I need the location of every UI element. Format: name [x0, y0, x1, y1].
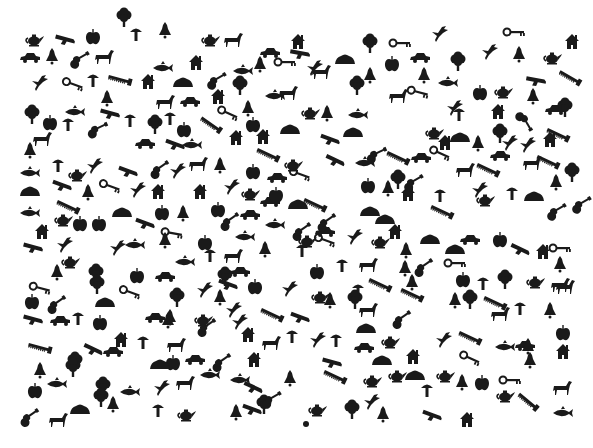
- fish-icon: [351, 149, 379, 177]
- horse-icon: [548, 374, 576, 402]
- guitar-icon: [286, 218, 314, 246]
- pistol-icon: [238, 396, 266, 424]
- mushroom-icon: [413, 376, 441, 404]
- bell-icon: [313, 99, 341, 127]
- key-icon: [158, 219, 186, 247]
- bird-icon: [476, 38, 504, 66]
- key-icon: [404, 78, 432, 106]
- teapot-icon: [491, 382, 519, 410]
- stray-dot: [303, 421, 309, 427]
- tree-icon: [343, 72, 371, 100]
- hat-icon: [441, 236, 469, 264]
- guitar-icon: [541, 198, 569, 226]
- fish-icon: [549, 399, 577, 427]
- fish-icon: [61, 98, 89, 126]
- bird-icon: [441, 94, 469, 122]
- saw-icon: [428, 198, 456, 226]
- fish-icon: [261, 82, 289, 110]
- bell-icon: [251, 235, 279, 263]
- key-icon: [271, 48, 299, 76]
- key-icon: [311, 226, 339, 254]
- apple-icon: [21, 377, 49, 405]
- bell-icon: [316, 286, 344, 314]
- bell-icon: [151, 16, 179, 44]
- mushroom-icon: [278, 322, 306, 350]
- mushroom-icon: [506, 294, 534, 322]
- teapot-icon: [471, 186, 499, 214]
- house-icon: [107, 326, 135, 354]
- mushroom-icon: [122, 20, 150, 48]
- guitar-icon: [191, 314, 219, 342]
- pistol-icon: [418, 402, 446, 430]
- saw-icon: [556, 64, 584, 92]
- pistol-icon: [318, 349, 346, 377]
- bell-icon: [99, 390, 127, 418]
- bell-icon: [392, 236, 420, 264]
- bird-icon: [104, 234, 132, 262]
- house-icon: [222, 124, 250, 152]
- pistol-icon: [19, 306, 47, 334]
- teapot-icon: [303, 396, 331, 424]
- bell-icon: [369, 400, 397, 428]
- guitar-icon: [566, 191, 593, 219]
- bird-icon: [430, 326, 458, 354]
- saw-icon: [544, 121, 572, 149]
- bell-icon: [38, 42, 66, 70]
- bell-icon: [505, 40, 533, 68]
- hat-icon: [284, 191, 312, 219]
- bird-icon: [276, 275, 304, 303]
- horse-icon: [219, 26, 247, 54]
- pistol-icon: [321, 147, 349, 175]
- house-icon: [549, 338, 577, 366]
- hidden-object-field: [0, 0, 593, 448]
- key-icon: [96, 172, 124, 200]
- horse-icon: [551, 273, 579, 301]
- bird-icon: [220, 296, 248, 324]
- bird-icon: [26, 69, 54, 97]
- mushroom-icon: [328, 251, 356, 279]
- pistol-icon: [214, 271, 242, 299]
- key-icon: [116, 278, 144, 306]
- mushroom-icon: [144, 396, 172, 424]
- saw-icon: [534, 148, 562, 176]
- house-icon: [453, 406, 481, 434]
- bird-icon: [341, 223, 369, 251]
- bird-icon: [301, 54, 329, 82]
- bell-icon: [514, 332, 542, 360]
- teapot-icon: [172, 401, 200, 429]
- hat-icon: [416, 226, 444, 254]
- hat-icon: [146, 351, 174, 379]
- bell-icon: [156, 303, 184, 331]
- key-icon: [426, 139, 454, 167]
- teapot-icon: [521, 268, 549, 296]
- hat-icon: [331, 46, 359, 74]
- teapot-icon: [279, 151, 307, 179]
- bell-icon: [398, 268, 426, 296]
- fish-icon: [196, 361, 224, 389]
- tree-icon: [551, 94, 579, 122]
- guitar-icon: [14, 404, 42, 432]
- fish-icon: [434, 69, 462, 97]
- apple-icon: [303, 258, 331, 286]
- bird-icon: [218, 173, 246, 201]
- hat-icon: [371, 206, 399, 234]
- car-icon: [131, 130, 159, 158]
- tree-icon: [456, 286, 484, 314]
- mushroom-icon: [344, 276, 372, 304]
